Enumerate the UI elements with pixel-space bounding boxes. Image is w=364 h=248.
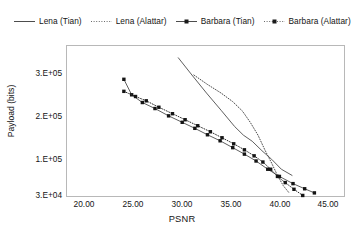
data-point-marker xyxy=(141,101,144,104)
x-tick-label: 25.00 xyxy=(110,199,156,209)
data-point-marker xyxy=(167,114,170,117)
data-point-marker xyxy=(252,154,255,157)
legend-item-lena-alattar: Lena (Alattar) xyxy=(91,16,167,27)
data-point-marker xyxy=(301,194,304,197)
data-point-marker xyxy=(261,160,264,163)
data-point-marker xyxy=(231,146,234,149)
data-point-marker xyxy=(243,152,246,155)
data-point-marker xyxy=(122,78,125,81)
data-point-marker xyxy=(181,121,184,124)
data-point-marker xyxy=(303,187,306,190)
data-point-marker xyxy=(153,107,156,110)
series-lena-tian xyxy=(178,58,292,176)
x-tick-label: 40.00 xyxy=(257,199,303,209)
data-point-marker xyxy=(232,142,235,145)
data-point-marker xyxy=(313,191,316,194)
data-point-marker xyxy=(145,99,148,102)
series-line xyxy=(178,58,292,176)
y-tick-label: 1.E+05 xyxy=(2,155,62,164)
legend-label-lena-alattar: Lena (Alattar) xyxy=(116,17,167,26)
data-point-marker xyxy=(183,118,186,121)
x-tick-label: 45.00 xyxy=(305,199,351,209)
data-point-marker xyxy=(134,95,137,98)
legend-swatch-dotted-marker-icon xyxy=(264,16,285,27)
legend-swatch-dotted-line-icon xyxy=(91,16,112,27)
data-point-marker xyxy=(209,130,212,133)
legend-label-barbara-alattar: Barbara (Alattar) xyxy=(289,17,351,26)
data-point-marker xyxy=(220,136,223,139)
x-tick-label: 35.00 xyxy=(208,199,254,209)
data-point-marker xyxy=(291,182,294,185)
data-point-marker xyxy=(269,168,272,171)
data-point-marker xyxy=(254,159,257,162)
legend-label-barbara-tian: Barbara (Tian) xyxy=(201,17,255,26)
data-point-marker xyxy=(284,181,287,184)
legend-item-barbara-alattar: Barbara (Alattar) xyxy=(264,16,351,27)
plot-area xyxy=(66,45,345,197)
data-point-marker xyxy=(206,133,209,136)
x-axis-ticks: 20.00 25.00 30.00 35.00 40.00 45.00 xyxy=(0,199,364,213)
x-tick-label: 30.00 xyxy=(159,199,205,209)
data-point-marker xyxy=(292,188,295,191)
data-point-marker xyxy=(276,175,279,178)
plot-canvas xyxy=(67,46,346,198)
data-point-marker xyxy=(157,106,160,109)
data-point-marker xyxy=(196,124,199,127)
x-tick-label: 20.00 xyxy=(61,199,107,209)
chart-figure: Lena (Tian) Lena (Alattar) Barbara (Tian… xyxy=(0,0,364,248)
data-point-marker xyxy=(193,127,196,130)
data-point-marker xyxy=(122,90,125,93)
y-axis-title: Payload (bits) xyxy=(6,75,16,147)
data-point-marker xyxy=(243,148,246,151)
x-axis-title: PSNR xyxy=(0,214,364,224)
data-point-marker xyxy=(218,139,221,142)
legend-swatch-solid-marker-icon xyxy=(176,16,197,27)
legend-item-barbara-tian: Barbara (Tian) xyxy=(176,16,255,27)
data-point-marker xyxy=(171,112,174,115)
